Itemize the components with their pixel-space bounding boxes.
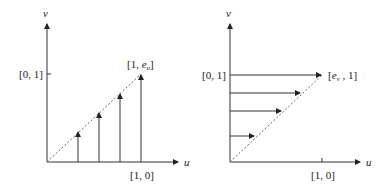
left-dashed-diagonal bbox=[47, 74, 141, 162]
left-endpoint-label: [1, eu] bbox=[127, 58, 154, 72]
left-x-label: u bbox=[184, 156, 190, 168]
left-y-tick-label: [0, 1] bbox=[19, 68, 43, 80]
diagram-canvas: v u [0, 1] [1, 0] [1, eu] v u [0, 1] [1,… bbox=[0, 0, 390, 189]
right-figure: v u [0, 1] [1, 0] [ev , 1] bbox=[202, 7, 372, 181]
right-endpoint-label: [ev , 1] bbox=[328, 69, 357, 83]
right-y-label: v bbox=[226, 7, 231, 19]
left-y-label: v bbox=[43, 7, 48, 19]
left-figure: v u [0, 1] [1, 0] [1, eu] bbox=[19, 7, 190, 181]
right-y-tick-label: [0, 1] bbox=[202, 69, 226, 81]
left-x-tick-label: [1, 0] bbox=[130, 169, 154, 181]
right-x-label: u bbox=[366, 156, 372, 168]
right-dashed-diagonal bbox=[230, 75, 322, 162]
right-x-tick-label: [1, 0] bbox=[311, 169, 335, 181]
